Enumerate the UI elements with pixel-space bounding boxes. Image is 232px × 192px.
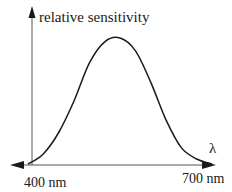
x-axis-label: λ — [209, 140, 217, 156]
y-axis-label: relative sensitivity — [39, 9, 150, 25]
sensitivity-chart: relative sensitivity λ 400 nm 700 nm — [0, 0, 232, 192]
sensitivity-curve — [28, 37, 212, 164]
y-axis-arrow-icon — [29, 6, 36, 18]
x-end-label: 700 nm — [182, 171, 225, 186]
x-start-label: 400 nm — [24, 175, 67, 190]
x-axis-left-arrow-icon — [10, 161, 24, 169]
